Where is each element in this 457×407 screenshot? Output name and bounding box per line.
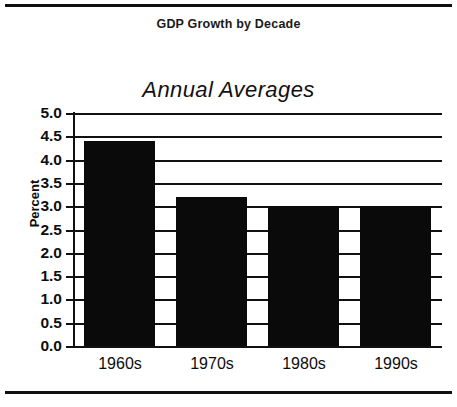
bar bbox=[176, 197, 247, 346]
y-axis-tick bbox=[66, 230, 75, 232]
y-axis-tick bbox=[66, 206, 75, 208]
x-axis-tick-label: 1960s bbox=[74, 355, 166, 373]
y-axis-tick-label: 2.5 bbox=[28, 221, 62, 239]
y-axis-tick bbox=[66, 299, 75, 301]
plot-area bbox=[74, 113, 442, 346]
y-axis-tick bbox=[66, 253, 75, 255]
y-axis-tick-label: 2.0 bbox=[28, 244, 62, 262]
x-axis-tick-label: 1980s bbox=[258, 355, 350, 373]
y-axis-tick-label: 1.5 bbox=[28, 267, 62, 285]
page-title: GDP Growth by Decade bbox=[0, 17, 457, 31]
y-axis-tick-labels: 5.04.54.03.53.02.52.01.51.00.50.0 bbox=[22, 113, 62, 346]
y-axis-tick bbox=[66, 276, 75, 278]
bottom-divider-rule bbox=[5, 391, 452, 394]
bar bbox=[84, 141, 155, 346]
y-axis-tick bbox=[66, 160, 75, 162]
y-axis-tick-label: 3.5 bbox=[28, 174, 62, 192]
gridline bbox=[74, 113, 442, 115]
x-axis-baseline bbox=[74, 346, 442, 348]
y-axis-tick bbox=[66, 113, 75, 115]
chart-page: GDP Growth by Decade Annual Averages Per… bbox=[0, 0, 457, 407]
chart-title: Annual Averages bbox=[0, 77, 457, 103]
y-axis-tick bbox=[66, 183, 75, 185]
x-axis-tick-label: 1990s bbox=[350, 355, 442, 373]
x-axis-tick-labels: 1960s1970s1980s1990s bbox=[74, 355, 442, 379]
y-axis-tick-label: 4.5 bbox=[28, 127, 62, 145]
bar bbox=[360, 206, 431, 346]
top-divider-rule bbox=[5, 4, 452, 7]
y-axis-tick bbox=[66, 323, 75, 325]
y-axis-tick-label: 1.0 bbox=[28, 290, 62, 308]
y-axis-tick-label: 0.5 bbox=[28, 314, 62, 332]
x-axis-tick-label: 1970s bbox=[166, 355, 258, 373]
y-axis-tick bbox=[66, 136, 75, 138]
bar bbox=[268, 206, 339, 346]
gridline bbox=[74, 136, 442, 138]
y-axis-tick bbox=[66, 346, 75, 348]
y-axis-tick-label: 4.0 bbox=[28, 151, 62, 169]
y-axis-tick-label: 0.0 bbox=[28, 337, 62, 355]
y-axis-tick-label: 5.0 bbox=[28, 104, 62, 122]
y-axis-tick-label: 3.0 bbox=[28, 197, 62, 215]
